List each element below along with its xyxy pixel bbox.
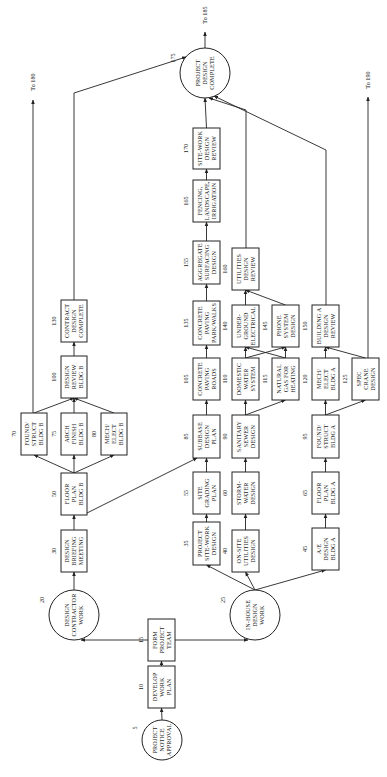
node-label: BLDG B — [77, 482, 84, 505]
node-160: UTILITIESDESIGNREVIEW160 — [221, 248, 259, 290]
node-label: SPEC — [355, 371, 362, 386]
node-label: UTILITIES — [242, 535, 249, 566]
node-id: 45 — [301, 546, 308, 552]
node-label: MEETING — [77, 536, 84, 565]
edge-25-45 — [255, 570, 326, 590]
node-15: FORMPROJECTTEAM15 — [137, 619, 175, 661]
node-id: 55 — [182, 490, 189, 496]
node-label: ON-SITE — [235, 539, 242, 564]
node-label: BLDG B — [77, 365, 84, 388]
node-label: CONTRACT — [63, 304, 70, 338]
node-id: 95 — [301, 433, 308, 439]
node-label: ELECT — [322, 369, 329, 389]
node-110: DOMESTICWATERSYSTEM110 — [221, 358, 259, 400]
node-label: DESIGN — [70, 309, 77, 333]
precedence-network-diagram: PROJECTNOTICEAPPROVAL5DEVELOPWORKPLAN10F… — [0, 0, 387, 777]
node-150: BUILDING ADESIGNREVIEW150 — [301, 305, 339, 347]
node-label: GROUND — [242, 312, 249, 340]
node-label: HEATING — [289, 365, 296, 393]
node-label: UTILITIES — [235, 253, 242, 284]
node-label: STRUCT — [322, 424, 329, 448]
node-id: 75 — [50, 431, 57, 437]
edge-150-175 — [214, 96, 326, 305]
node-label: REVIEW — [329, 314, 336, 339]
node-75: ARCHFINISHBLDG B75 — [50, 413, 87, 455]
node-label: SURFACING — [203, 244, 210, 280]
node-label: DESIGN — [203, 136, 210, 160]
node-label: PARK/WALKS — [210, 303, 217, 343]
node-label: MECH/ — [103, 424, 110, 444]
external-link-label: To 180 — [29, 73, 36, 90]
node-label: WORK — [158, 677, 165, 697]
node-id: 115 — [261, 374, 268, 383]
node-170: SITE-WORKDESIGNREVIEW170 — [182, 128, 220, 169]
node-label: UNDER- — [235, 314, 242, 338]
node-id: 70 — [10, 431, 17, 437]
node-label: SUBBASE — [196, 422, 203, 451]
node-label: PLAN — [210, 484, 217, 501]
node-label: DESIGN — [251, 603, 258, 627]
node-label: WATER — [242, 482, 249, 504]
node-label: ELECT — [110, 424, 117, 444]
node-60: STORM-WATERDESIGN60 — [221, 472, 259, 514]
node-label: FOUND/ — [23, 422, 30, 446]
node-label: BLDG A — [329, 367, 336, 391]
node-155: AGGREGATESURFACINGDESIGN155 — [182, 241, 220, 284]
node-90: SANITARYSEWERDESIGN90 — [221, 415, 259, 458]
node-20: DESIGNCONTRACTORWORK20 — [38, 590, 99, 640]
node-130: CONTRACTDESIGNCOMPLETE130 — [50, 300, 87, 342]
node-label: FENCING, — [196, 186, 203, 216]
edge-95-125 — [326, 400, 366, 415]
node-label: STORM- — [235, 481, 242, 505]
node-label: MECH/ — [315, 369, 322, 389]
node-label: BLDG B — [37, 422, 44, 445]
node-label: FLOOR — [315, 482, 322, 504]
node-id: 170 — [182, 144, 189, 153]
node-label: DESIGN — [249, 481, 256, 505]
node-label: FINISH — [70, 423, 77, 444]
node-label: DESIGN — [203, 424, 210, 448]
node-70: FOUND/STRUCTBLDG B70 — [10, 413, 47, 455]
node-label: PAVING — [203, 367, 210, 390]
node-id: 145 — [261, 321, 268, 330]
node-label: DESIGN — [63, 539, 70, 563]
node-label: CONCRETE — [196, 362, 203, 396]
node-95: FOUND/STRUCTBLDG A95 — [301, 415, 339, 458]
node-id: 15 — [137, 637, 144, 643]
node-label: IN-HOUSE — [244, 600, 251, 630]
node-label: WATER — [242, 368, 249, 390]
node-label: DOMESTIC — [235, 363, 242, 395]
node-label: DESIGN — [249, 539, 256, 563]
node-label: REVIEW — [249, 257, 256, 282]
node-label: IRRIGATION — [210, 182, 217, 219]
node-id: 135 — [182, 318, 189, 327]
node-label: PROJECT — [196, 530, 203, 557]
node-35: PROJECTSITE-WORKDESIGN35 — [182, 522, 220, 565]
node-id: 20 — [38, 597, 45, 603]
node-label: WORK — [258, 605, 265, 625]
node-id: 10 — [137, 684, 144, 690]
node-label: PLAN — [165, 678, 172, 695]
node-label: TEAM — [165, 631, 172, 649]
node-label: PHONE — [275, 315, 282, 336]
node-40: ON-SITEUTILITIESDESIGN40 — [221, 530, 259, 572]
node-label: COMPLETE — [77, 304, 84, 338]
node-30: DESIGNBRIEFINGMEETING30 — [50, 530, 87, 572]
nodes-layer: PROJECTNOTICEAPPROVAL5DEVELOPWORKPLAN10F… — [10, 48, 379, 760]
node-label: ELECTRICAL — [249, 306, 256, 345]
node-id: 110 — [221, 374, 228, 383]
node-label: DESIGN — [201, 61, 208, 85]
node-label: PROJECT — [194, 59, 201, 86]
node-label: PLAN — [322, 484, 329, 501]
node-label: DESIGN — [249, 424, 256, 448]
node-label: SITE-WORK — [196, 131, 203, 166]
edge-70-100 — [34, 398, 74, 413]
external-link-label: To 190 — [364, 71, 371, 88]
edge-50-70 — [34, 455, 74, 473]
node-id: 35 — [182, 540, 189, 546]
node-label: DESIGN — [322, 314, 329, 338]
node-5: PROJECTNOTICEAPPROVAL5 — [131, 720, 182, 760]
node-label: BRIEFING — [70, 536, 77, 566]
node-id: 100 — [50, 372, 57, 381]
node-id: 80 — [90, 431, 97, 437]
